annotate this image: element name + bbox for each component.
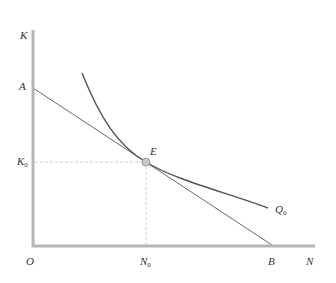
k0-label-sub: 0 (24, 161, 28, 169)
point-b-label: B (268, 256, 275, 267)
isoquant-curve (82, 73, 268, 208)
point-a-label: A (19, 81, 26, 92)
q0-label: Q0 (275, 204, 286, 217)
y-axis-label: K (20, 30, 27, 41)
k0-label: K0 (17, 156, 28, 169)
q0-label-sub: 0 (283, 209, 287, 217)
q0-label-main: Q (275, 203, 283, 215)
x-axis-label: N (306, 256, 313, 267)
origin-label: O (26, 256, 34, 267)
diagram-canvas (0, 0, 336, 283)
tangency-point-e (142, 158, 150, 166)
n0-label-sub: 0 (147, 261, 151, 269)
n0-label: N0 (140, 256, 151, 269)
point-e-label: E (150, 146, 157, 157)
isoquant-diagram: K A K0 E Q0 O N0 B N (0, 0, 336, 283)
